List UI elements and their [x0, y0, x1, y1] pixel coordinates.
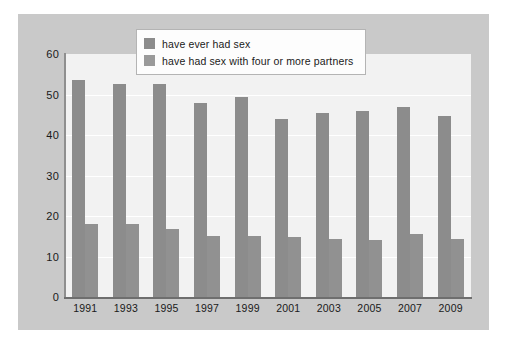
bar	[126, 224, 139, 297]
bar	[288, 237, 301, 297]
bar	[72, 80, 85, 297]
bar-group	[309, 54, 350, 297]
legend-label-series-a: have ever had sex	[162, 38, 250, 50]
y-axis-tick-label: 10	[25, 251, 59, 263]
bar	[410, 234, 423, 297]
bar-group	[65, 54, 106, 297]
x-axis-tick-label: 2009	[430, 302, 471, 314]
bar-group	[349, 54, 390, 297]
y-axis-tick-label: 40	[25, 129, 59, 141]
legend-label-series-b: have had sex with four or more partners	[162, 55, 353, 67]
bar	[235, 97, 248, 297]
x-axis-tick-label: 1999	[227, 302, 268, 314]
bar	[248, 236, 261, 297]
bar-group	[146, 54, 187, 297]
bar	[275, 119, 288, 297]
y-axis-tick-label: 60	[25, 48, 59, 60]
x-axis-tick-label: 1993	[106, 302, 147, 314]
bar	[113, 84, 126, 297]
legend-item: have ever had sex	[144, 35, 353, 52]
bar	[85, 224, 98, 297]
x-axis-tick-label: 1995	[146, 302, 187, 314]
bar-group	[227, 54, 268, 297]
y-axis-tick-label: 20	[25, 210, 59, 222]
bar-group	[268, 54, 309, 297]
x-axis-line	[64, 297, 472, 299]
x-axis-tick-label: 1991	[65, 302, 106, 314]
bar	[153, 84, 166, 297]
bar-series-container	[65, 54, 471, 297]
bar-group	[187, 54, 228, 297]
y-axis-tick-label: 50	[25, 89, 59, 101]
bar	[166, 229, 179, 297]
legend-swatch-series-a-icon	[144, 38, 155, 49]
bar-group	[430, 54, 471, 297]
x-axis-tick-labels: 1991199319951997199920012003200520072009	[65, 302, 471, 314]
chart-card: 6050403020100 19911993199519971999200120…	[18, 14, 489, 330]
bar	[369, 240, 382, 297]
x-axis-tick-label: 2005	[349, 302, 390, 314]
legend-swatch-series-b-icon	[144, 55, 155, 66]
bar	[329, 239, 342, 297]
y-axis-tick-labels: 6050403020100	[18, 54, 59, 297]
bar-group	[390, 54, 431, 297]
bar	[207, 236, 220, 297]
x-axis-tick-label: 1997	[187, 302, 228, 314]
x-axis-tick-label: 2001	[268, 302, 309, 314]
bar	[397, 107, 410, 297]
x-axis-tick-label: 2003	[309, 302, 350, 314]
chart-legend: have ever had sex have had sex with four…	[136, 29, 366, 75]
legend-item: have had sex with four or more partners	[144, 52, 353, 69]
bar	[316, 113, 329, 297]
bar	[438, 116, 451, 297]
x-axis-tick-label: 2007	[390, 302, 431, 314]
bar-group	[106, 54, 147, 297]
y-axis-tick-label: 30	[25, 170, 59, 182]
y-axis-tick-label: 0	[25, 291, 59, 303]
bar	[451, 239, 464, 297]
bar	[194, 103, 207, 297]
bar	[356, 111, 369, 297]
